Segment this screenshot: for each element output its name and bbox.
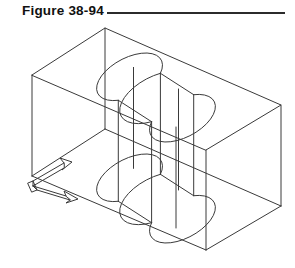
- box-top-face: [32, 28, 281, 150]
- isometric-drawing: [0, 0, 295, 268]
- bottom-hole-a-near-arc: [120, 174, 161, 224]
- top-slot-inner-arcs: [115, 71, 194, 127]
- box-edge-bottom-left-back: [32, 129, 105, 176]
- top-hole-a-near-arc: [120, 73, 161, 123]
- box-edge-bottom-back-right: [105, 129, 281, 206]
- bottom-slot-tangent-back: [160, 174, 193, 195]
- bottom-slot-opening: [97, 154, 216, 243]
- top-hole-a-far-arc: [97, 53, 163, 101]
- top-hole-b-near-arc: [149, 94, 215, 142]
- ucs-coordinate-icon: [28, 158, 78, 203]
- wireframe-geometry: [28, 28, 281, 250]
- ucs-x-axis-line: [33, 186, 66, 196]
- box-edge-bottom-front-right: [206, 206, 281, 250]
- wireframe-svg: [0, 0, 295, 268]
- bottom-hole-a-far-arc: [97, 154, 163, 202]
- box-bottom-face: [32, 129, 281, 250]
- figure-page: Figure 38-94: [0, 0, 295, 268]
- box-vertical-edges: [32, 28, 281, 250]
